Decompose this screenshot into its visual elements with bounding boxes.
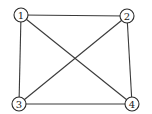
- edge-1-4: [21, 15, 132, 104]
- node-label: 3: [16, 99, 22, 110]
- graph-diagram: 1234: [0, 0, 152, 114]
- node-1: 1: [14, 8, 28, 22]
- node-2: 2: [120, 9, 134, 23]
- edges-group: [19, 15, 132, 104]
- node-label: 1: [18, 10, 24, 21]
- node-3: 3: [12, 97, 26, 111]
- node-label: 2: [124, 11, 130, 22]
- graph-svg: 1234: [0, 0, 152, 114]
- edge-1-2: [21, 15, 127, 16]
- edge-2-3: [19, 16, 127, 104]
- edge-2-4: [127, 16, 132, 104]
- edge-1-3: [19, 15, 21, 104]
- node-4: 4: [125, 97, 139, 111]
- node-label: 4: [129, 99, 135, 110]
